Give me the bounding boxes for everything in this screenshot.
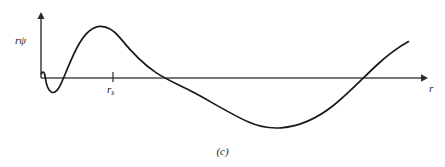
y-axis-label: rψ <box>15 35 26 46</box>
x-axis-label: r <box>429 83 433 94</box>
tick-label-subscript: s <box>111 88 114 97</box>
x-axis-arrowhead <box>421 74 428 82</box>
wavefunction-curve <box>42 26 409 128</box>
y-axis-label-psi: ψ <box>19 34 26 46</box>
figure-container: rψ r rs (c) <box>0 0 445 167</box>
x-axis-tick-label: rs <box>107 84 114 95</box>
figure-caption: (c) <box>0 145 445 157</box>
y-axis-arrowhead <box>37 12 44 19</box>
plot-svg <box>0 0 445 167</box>
